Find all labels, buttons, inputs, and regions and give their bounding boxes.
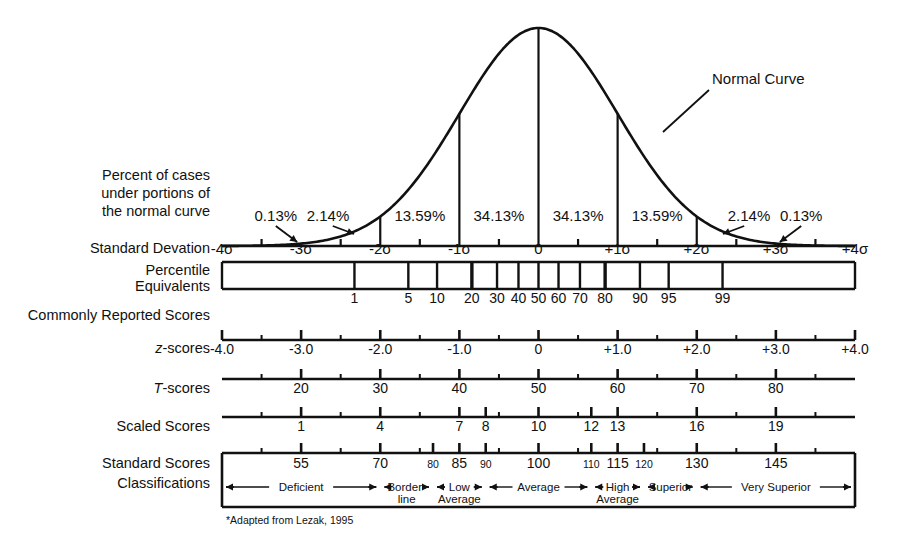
standard-scores-tick-label-3: 85 — [452, 455, 468, 471]
classification-3-arrow-right-head — [580, 483, 587, 490]
scaled-scores-tick-label-3: 8 — [482, 418, 490, 434]
sd-tick-label-4: 0 — [534, 240, 542, 257]
percent-of-cases-value-1: 2.14% — [307, 207, 350, 224]
footnote: *Adapted from Lezak, 1995 — [226, 514, 353, 526]
z-scores-tick-label-5: +1.0 — [604, 341, 632, 357]
label-percent-of-cases-line-1: Percent of cases — [102, 167, 210, 183]
classification-2-arrow-left-head — [437, 483, 444, 490]
z-scores-tick-label-2: -2.0 — [368, 341, 392, 357]
z-scores-tick-label-0: -4.0 — [210, 341, 234, 357]
t-scores-tick-label-1: 30 — [372, 380, 388, 396]
scaled-scores-tick-label-7: 16 — [689, 418, 705, 434]
standard-scores-tick-label-4: 90 — [480, 458, 492, 470]
normal-curve-figure: Percent of casesunder portions ofthe nor… — [0, 0, 907, 553]
scaled-scores-tick-label-1: 4 — [376, 418, 384, 434]
z-scores-tick-label-7: +3.0 — [762, 341, 790, 357]
normal-curve-label: Normal Curve — [712, 70, 805, 87]
classification-1-label-line-2: line — [398, 493, 416, 505]
t-scores-tick-label-6: 80 — [768, 380, 784, 396]
classification-2-label-line-1: Low — [449, 481, 471, 493]
classification-0-arrow-left-head — [226, 483, 233, 490]
percentile-tick-label-1: 5 — [404, 290, 412, 306]
percentile-tick-label-7: 60 — [551, 290, 567, 306]
percentile-tick-label-5: 40 — [511, 290, 527, 306]
classification-3-label-line-1: Average — [517, 481, 560, 493]
sd-tick-label-2: -2σ — [369, 240, 392, 257]
classification-6-label-line-1: Very Superior — [741, 481, 811, 493]
classification-0-arrow-right-head — [369, 483, 376, 490]
t-scores-tick-label-0: 20 — [293, 380, 309, 396]
percentile-tick-label-8: 70 — [572, 290, 588, 306]
percentile-tick-label-10: 90 — [632, 290, 648, 306]
standard-scores-tick-label-0: 55 — [293, 455, 309, 471]
scaled-scores-tick-label-0: 1 — [297, 418, 305, 434]
classification-3-arrow-left-head — [490, 483, 497, 490]
classification-1-label-line-1: Border- — [387, 481, 426, 493]
label-scaled-scores: Scaled Scores — [117, 418, 211, 434]
classification-6-arrow-left-head — [701, 483, 708, 490]
standard-scores-tick-label-6: 110 — [583, 458, 600, 470]
sd-tick-label-5: +1σ — [604, 240, 631, 257]
classification-2-arrow-right-head — [475, 483, 482, 490]
percentile-tick-label-3: 20 — [464, 290, 480, 306]
figure-canvas: Percent of casesunder portions ofthe nor… — [0, 0, 907, 553]
label-standard-scores: Standard Scores — [102, 455, 210, 471]
classification-4-label-line-2: Average — [596, 493, 639, 505]
z-scores-tick-label-6: +2.0 — [683, 341, 711, 357]
classification-4-label-line-1: High — [606, 481, 630, 493]
percent-of-cases-value-7: 0.13% — [780, 207, 823, 224]
percentile-tick-label-6: 50 — [531, 290, 547, 306]
classification-5-label-line-1: Superior — [649, 481, 693, 493]
standard-scores-tick-label-10: 145 — [764, 455, 788, 471]
percentile-tick-label-11: 95 — [661, 290, 677, 306]
z-scores-tick-label-4: 0 — [535, 341, 543, 357]
percent-of-cases-value-2: 13.59% — [394, 207, 445, 224]
standard-scores-tick-label-7: 115 — [606, 455, 629, 471]
scaled-scores-tick-label-2: 7 — [455, 418, 463, 434]
classification-4-arrow-left-head — [595, 483, 602, 490]
percentile-tick-label-0: 1 — [351, 290, 359, 306]
percentile-tick-label-4: 30 — [489, 290, 505, 306]
percent-of-cases-value-3: 34.13% — [474, 207, 525, 224]
label-percentile-line-1: Percentile — [146, 262, 210, 278]
z-scores-tick-label-8: +4.0 — [841, 341, 869, 357]
label-z-scores: z-scores — [154, 340, 210, 356]
percent-of-cases-value-4: 34.13% — [553, 207, 604, 224]
sd-tick-label-0: -4σ — [211, 240, 234, 257]
standard-scores-tick-label-9: 130 — [685, 455, 709, 471]
t-scores-tick-label-3: 50 — [531, 380, 547, 396]
label-commonly-reported-scores: Commonly Reported Scores — [28, 307, 210, 323]
label-t-scores: T-scores — [154, 380, 210, 396]
normal-curve-leader — [663, 90, 709, 132]
label-classifications: Classifications — [117, 475, 210, 491]
scaled-scores-tick-label-6: 13 — [610, 418, 626, 434]
t-scores-tick-label-5: 70 — [689, 380, 705, 396]
scaled-scores-tick-label-4: 10 — [531, 418, 547, 434]
sd-tick-label-8: +4σ — [842, 240, 869, 257]
scaled-scores-tick-label-8: 19 — [768, 418, 784, 434]
label-percent-of-cases-line-2: under portions of — [101, 185, 211, 201]
classification-6-arrow-right-head — [844, 483, 851, 490]
classification-4-arrow-right-head — [633, 483, 640, 490]
standard-scores-tick-label-5: 100 — [527, 455, 551, 471]
percent-of-cases-value-6: 2.14% — [728, 207, 771, 224]
percentile-tick-label-9: 80 — [597, 290, 613, 306]
sd-tick-label-3: -1σ — [448, 240, 471, 257]
label-standard-deviation: Standard Devation — [90, 240, 210, 256]
classification-0-label-line-1: Deficient — [279, 481, 325, 493]
label-percent-of-cases-line-3: the normal curve — [102, 203, 210, 219]
percentile-tick-label-2: 10 — [429, 290, 445, 306]
standard-scores-tick-label-8: 120 — [635, 458, 653, 470]
classification-2-label-line-2: Average — [438, 493, 481, 505]
percent-of-cases-value-0: 0.13% — [255, 207, 298, 224]
percentile-tick-label-12: 99 — [715, 290, 731, 306]
z-scores-tick-label-3: -1.0 — [447, 341, 471, 357]
percent-of-cases-value-5: 13.59% — [632, 207, 683, 224]
sd-tick-label-7: +3σ — [763, 240, 790, 257]
label-percentile-line-2: Equivalents — [135, 278, 210, 294]
standard-scores-tick-label-1: 70 — [372, 455, 388, 471]
sd-tick-label-1: -3σ — [290, 240, 313, 257]
z-scores-tick-label-1: -3.0 — [289, 341, 313, 357]
t-scores-tick-label-4: 60 — [610, 380, 626, 396]
sd-tick-label-6: +2σ — [684, 240, 711, 257]
